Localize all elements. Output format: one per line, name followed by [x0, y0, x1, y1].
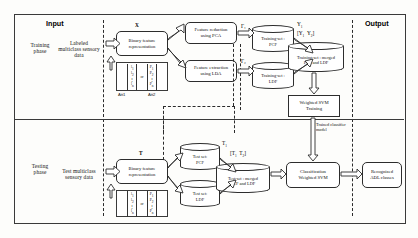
reuse-path-right	[233, 44, 234, 106]
test-ldf-line2: LDF	[196, 197, 204, 203]
training-ldf-line2: LDF	[269, 79, 277, 85]
training-binary-feature-box[interactable]: Binary feature representation	[116, 31, 168, 56]
training-merged-line2: PCF and LDF	[304, 60, 329, 66]
training-matrix-p: P1P2⋮Pn	[147, 64, 157, 90]
svm-train-line1: Weighted SVM	[299, 100, 328, 105]
test-pcf-line2: PCF	[196, 160, 204, 166]
svm-train-line2: Training	[306, 106, 322, 111]
test-pcf-store[interactable]: Test set: PCF	[180, 143, 220, 170]
test-pcf-store-text: Test set: PCF	[180, 150, 220, 169]
testing-data-line2: sensory data	[65, 174, 93, 180]
training-att1-label: Att1	[118, 92, 125, 97]
output-result-text: Recognized ADL classes	[370, 169, 394, 181]
test-merged-store-text: Test-set : merged PCF and LDF	[216, 170, 270, 192]
classify-line2: Weighted SVM	[298, 175, 327, 180]
test-ldf-store[interactable]: Test set: LDF	[180, 180, 220, 207]
testing-binary-feature-box[interactable]: Binary feature representation	[116, 159, 168, 184]
model-parameter-reuse-path	[163, 106, 235, 133]
training-merged-store[interactable]: Training-set : merged PCF and LDF	[288, 42, 344, 72]
gamma2-tag: Γ₂	[241, 58, 246, 64]
classify-line1: Classification	[300, 169, 326, 174]
testing-binary-feature-text: Binary feature representation	[129, 166, 156, 178]
testing-phase-label: Testing phase	[20, 163, 60, 175]
testing-phase-line2: phase	[34, 169, 47, 175]
svm-training-text: Weighted SVM Training	[299, 100, 328, 112]
weighted-svm-training-box[interactable]: Weighted SVM Training	[288, 95, 340, 117]
lda-line1: Feature extraction	[194, 65, 228, 70]
trained-classifier-model-label: Trained classifier model	[316, 122, 346, 132]
pca-text: Feature reduction using PCA	[195, 27, 228, 39]
output-separator	[352, 20, 353, 216]
trained-model-line2: model	[316, 127, 327, 132]
training-x-tag: X	[135, 22, 139, 28]
training-phase-label: Training phase	[20, 42, 60, 54]
training-merged-store-text: Training-set : merged PCF and LDF	[288, 49, 344, 71]
training-data-line3: data	[74, 52, 83, 58]
merged-t-tag: [T1 T2]	[230, 150, 246, 158]
training-binary-feature-text: Binary feature representation	[129, 38, 156, 50]
output-line1: Recognized	[371, 169, 393, 174]
input-separator	[103, 20, 104, 216]
testing-matrix-group: l1l2⋮ln or P1P2⋮Pn	[116, 190, 168, 217]
testing-matrix-p: P1P2⋮Pn	[147, 191, 157, 217]
testing-matrix-or: or	[140, 202, 143, 206]
diagram-root: Input Output Training phase Testing phas…	[0, 0, 418, 238]
training-matrix-group: l1l2⋮ln or P1P2⋮Pn	[116, 62, 168, 91]
test-merged-line2: PCF and LDF	[231, 181, 256, 187]
lda-extraction-box[interactable]: Feature extraction using LDA	[185, 60, 237, 82]
training-bf-line2: representation	[129, 44, 156, 49]
pca-line1: Feature reduction	[195, 27, 228, 32]
lda-text: Feature extraction using LDA	[194, 65, 228, 77]
testing-data-source-label: Test multiclass sensory data	[56, 168, 102, 180]
pca-line2: using PCA	[201, 33, 221, 38]
testing-bf-line2: representation	[129, 172, 156, 177]
classification-weighted-svm-box[interactable]: Classification Weighted SVM	[286, 162, 340, 188]
training-att2-label: Att2	[148, 92, 155, 97]
training-phase-line2: phase	[34, 48, 47, 54]
merged-y-tag: [Y1 Y2]	[297, 30, 314, 38]
output-line2: ADL classes	[370, 175, 394, 180]
output-column-heading: Output	[365, 19, 389, 28]
training-matrix-l: l1l2⋮ln	[127, 64, 137, 90]
y1-tag: Y1	[297, 21, 303, 29]
pca-reduction-box[interactable]: Feature reduction using PCA	[185, 22, 237, 44]
t1-tag: T1	[222, 140, 227, 148]
classification-text: Classification Weighted SVM	[298, 169, 327, 181]
recognized-adl-classes-box[interactable]: Recognized ADL classes	[362, 162, 402, 188]
training-data-source-label: Labeled multiclass sensory data	[56, 40, 102, 58]
training-matrix-or: or	[140, 75, 143, 79]
input-column-heading: Input	[46, 19, 64, 28]
testing-matrix-l: l1l2⋮ln	[127, 191, 137, 217]
test-ldf-store-text: Test set: LDF	[180, 187, 220, 206]
training-bf-line1: Binary feature	[129, 38, 156, 43]
test-merged-store[interactable]: Test-set : merged PCF and LDF	[216, 163, 270, 193]
training-pcf-line2: PCF	[269, 42, 277, 48]
testing-bf-line1: Binary feature	[129, 166, 156, 171]
testing-t-tag: T	[139, 150, 143, 156]
reuse-path-lda-link	[240, 44, 241, 110]
gamma1-tag: Γ₁	[241, 23, 246, 29]
reuse-path-left	[163, 106, 164, 160]
lda-line2: using LDA	[201, 71, 222, 76]
